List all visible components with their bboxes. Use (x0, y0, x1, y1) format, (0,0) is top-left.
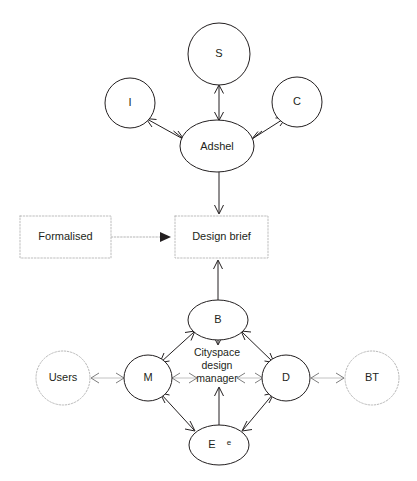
center-label: Cityspace design manager (194, 346, 240, 384)
center-label-line-1: Cityspace (194, 346, 240, 358)
edge-formalised-design-brief (111, 232, 171, 242)
edge-e-center (215, 387, 224, 426)
node-formalised-label: Formalised (38, 230, 92, 242)
edge-adshel-s (215, 85, 224, 121)
edge-users-m (91, 373, 124, 383)
node-design-brief-label: Design brief (192, 230, 252, 242)
edge-m-center (172, 373, 197, 383)
edge-d-center (237, 373, 263, 383)
node-users[interactable]: Users (36, 351, 90, 405)
node-bt[interactable]: BT (345, 351, 399, 405)
node-c[interactable]: C (272, 77, 322, 127)
node-adshel-label: Adshel (200, 140, 234, 152)
node-b[interactable]: B (188, 300, 248, 340)
node-e-shape[interactable] (189, 425, 249, 465)
edge-b-design-brief (214, 260, 223, 300)
node-formalised[interactable]: Formalised (20, 216, 111, 258)
node-e-sublabel: e (227, 438, 232, 447)
edge-m-e (160, 393, 195, 431)
node-users-label: Users (49, 371, 78, 383)
edge-adshel-i (146, 119, 184, 140)
edge-adshel-design-brief (215, 172, 224, 214)
node-i-label: I (128, 96, 131, 108)
edge-m-b (160, 331, 195, 363)
node-m-label: M (143, 371, 152, 383)
relationship-diagram: S I C Adshel Formalised (0, 0, 417, 481)
node-d-label: D (282, 371, 290, 383)
node-c-label: C (293, 95, 301, 107)
node-bt-label: BT (365, 371, 379, 383)
edge-d-e (242, 393, 274, 431)
node-layer: S I C Adshel Formalised (20, 23, 399, 465)
edge-d-b (241, 331, 274, 363)
diagram-canvas: S I C Adshel Formalised (0, 0, 417, 481)
center-label-line-3: manager (196, 372, 238, 384)
node-adshel[interactable]: Adshel (180, 120, 254, 172)
center-label-line-2: design (202, 359, 233, 371)
node-i[interactable]: I (105, 78, 155, 128)
node-d[interactable]: D (262, 355, 310, 401)
node-e[interactable]: E e (189, 425, 249, 465)
node-b-label: B (214, 313, 221, 325)
node-m[interactable]: M (124, 355, 172, 401)
node-s-label: S (215, 47, 222, 59)
edge-d-bt (311, 373, 344, 383)
node-s[interactable]: S (188, 23, 250, 85)
node-design-brief[interactable]: Design brief (175, 216, 268, 258)
node-e-label: E (208, 438, 215, 450)
